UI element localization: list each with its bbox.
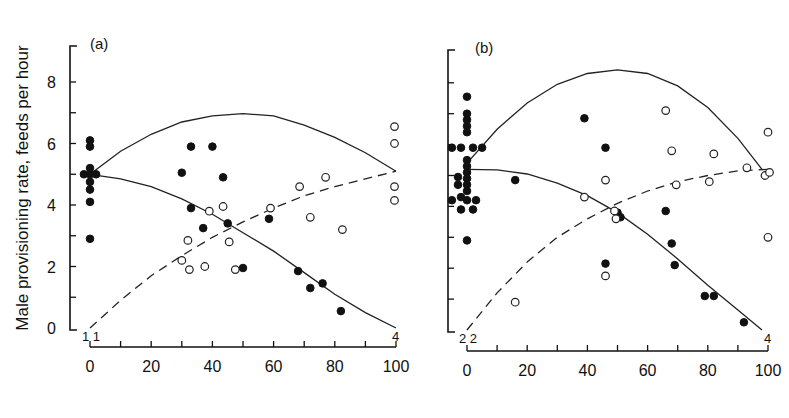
filled-data-point	[581, 115, 589, 123]
open-data-point	[511, 298, 519, 306]
x-tick-label: 40	[579, 362, 597, 379]
panel-label: (a)	[90, 35, 108, 52]
filled-data-point	[219, 174, 227, 182]
open-data-point	[710, 150, 718, 158]
filled-data-point	[457, 144, 465, 152]
open-data-point	[391, 183, 399, 191]
filled-data-point	[239, 264, 247, 272]
open-data-point	[764, 234, 772, 242]
filled-data-point	[463, 187, 471, 195]
filled-data-point	[602, 260, 610, 268]
open-data-point	[581, 193, 589, 201]
chart-canvas: Male provisioning rate, feeds per hour (…	[0, 0, 789, 418]
filled-data-point	[92, 171, 100, 179]
open-data-point	[201, 263, 209, 271]
filled-data-point	[86, 143, 94, 151]
filled-data-point	[463, 237, 471, 245]
filled-data-point	[86, 198, 94, 206]
filled-data-point	[187, 143, 195, 151]
filled-data-point	[86, 235, 94, 243]
x-tick-label: 100	[755, 362, 782, 379]
filled-data-point	[319, 280, 327, 288]
x-tick-label: 60	[639, 362, 657, 379]
open-data-point	[668, 147, 676, 155]
dashed-fit-curve	[467, 169, 768, 330]
panel-a: (a)024680204060801001 14	[47, 35, 409, 375]
open-data-point	[206, 207, 214, 215]
filled-data-point	[454, 181, 462, 189]
filled-data-point	[463, 196, 471, 204]
open-data-point	[391, 123, 399, 131]
open-data-point	[391, 197, 399, 205]
filled-data-point	[463, 128, 471, 136]
x-tick-label: 20	[142, 358, 160, 375]
open-data-point	[296, 183, 304, 191]
filled-data-point	[668, 240, 676, 248]
count-annotation: 4	[392, 329, 399, 344]
x-tick-label: 20	[518, 362, 536, 379]
filled-data-point	[265, 215, 273, 223]
filled-data-point	[701, 292, 709, 300]
filled-data-point	[511, 176, 519, 184]
filled-data-point	[187, 204, 195, 212]
filled-data-point	[740, 319, 748, 327]
open-data-point	[764, 128, 772, 136]
filled-data-point	[199, 224, 207, 232]
x-tick-label: 80	[326, 358, 344, 375]
solid-fit-curve	[467, 169, 762, 330]
open-data-point	[307, 214, 315, 222]
open-data-point	[232, 266, 240, 274]
open-data-point	[391, 140, 399, 148]
filled-data-point	[307, 284, 315, 292]
open-data-point	[743, 164, 751, 172]
y-axis-line	[448, 50, 455, 332]
open-data-point	[662, 107, 670, 115]
open-data-point	[322, 174, 330, 182]
x-tick-label: 100	[383, 358, 410, 375]
open-data-point	[186, 266, 194, 274]
open-data-point	[602, 272, 610, 280]
filled-data-point	[463, 93, 471, 101]
y-axis-line	[70, 46, 77, 330]
open-data-point	[706, 178, 714, 186]
filled-data-point	[448, 144, 456, 152]
filled-data-point	[448, 196, 456, 204]
filled-data-point	[337, 307, 345, 315]
filled-data-point	[472, 196, 480, 204]
chart-figure: Male provisioning rate, feeds per hour (…	[0, 0, 789, 418]
x-tick-label: 0	[86, 358, 95, 375]
filled-data-point	[294, 267, 302, 275]
filled-data-point	[478, 144, 486, 152]
panel-label: (b)	[475, 39, 493, 56]
y-tick-label: 4	[47, 197, 56, 214]
dashed-fit-curve	[90, 171, 396, 328]
open-data-point	[339, 226, 347, 234]
y-tick-label: 8	[47, 74, 56, 91]
filled-data-point	[209, 143, 217, 151]
filled-data-point	[602, 144, 610, 152]
y-tick-label: 6	[47, 136, 56, 153]
open-data-point	[611, 207, 619, 215]
open-data-point	[672, 181, 680, 189]
open-data-point	[178, 257, 186, 265]
y-axis-label: Male provisioning rate, feeds per hour	[13, 45, 32, 331]
panel-b: (b)0204060801002 24	[448, 39, 781, 379]
solid-fit-curve	[90, 114, 396, 175]
filled-data-point	[710, 292, 718, 300]
x-tick-label: 60	[265, 358, 283, 375]
y-tick-label: 0	[47, 320, 56, 337]
x-tick-label: 80	[699, 362, 717, 379]
filled-data-point	[662, 207, 670, 215]
filled-data-point	[224, 220, 232, 228]
count-annotation: 2 2	[459, 331, 477, 346]
filled-data-point	[457, 206, 465, 214]
open-data-point	[184, 237, 192, 245]
count-annotation: 1 1	[82, 329, 100, 344]
filled-data-point	[469, 144, 477, 152]
open-data-point	[225, 238, 233, 246]
filled-data-point	[469, 206, 477, 214]
open-data-point	[612, 215, 620, 223]
solid-fit-curve	[90, 174, 396, 328]
count-annotation: 4	[764, 331, 771, 346]
open-data-point	[602, 176, 610, 184]
